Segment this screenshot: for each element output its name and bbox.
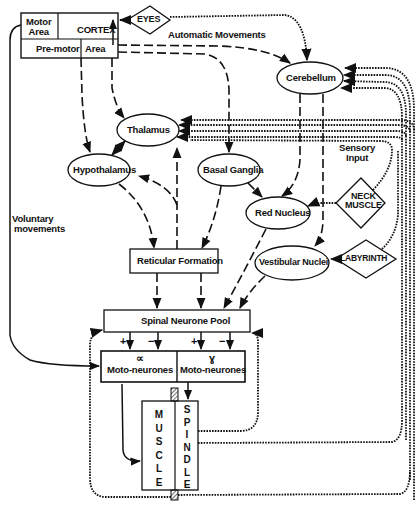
spinal-neurone-pool-label: Spinal Neurone Pool	[141, 316, 230, 326]
eyes-label: EYES	[137, 15, 160, 24]
muscle-letter: U	[151, 422, 167, 436]
spindle-letter: I	[178, 429, 196, 442]
muscle-label: M U S C L E	[151, 408, 167, 489]
cortex-to-hypothalamus-path	[81, 58, 90, 152]
basal-ganglia-label: Basal Ganglia	[203, 165, 263, 175]
hypothalamus-label: Hypothalamus	[73, 165, 136, 175]
voluntary-movements-path	[10, 25, 99, 366]
cerebellum-to-vestibular-path	[315, 94, 323, 246]
spindle-letter: N	[178, 442, 196, 455]
cerebellum-label: Cerebellum	[286, 73, 336, 83]
sensory-line2: Input	[339, 153, 375, 163]
neck-line2: MUSCLE	[345, 201, 382, 210]
premotor-area-label: Area	[85, 44, 105, 54]
automatic-movements-label: Automatic Movements	[168, 30, 266, 40]
gamma-motoneurones-label: ɣ Moto-neurones	[180, 353, 244, 375]
gamma-symbol: ɣ	[180, 353, 244, 365]
muscle-letter: C	[151, 449, 167, 463]
cortex-to-thalamus-path	[112, 58, 124, 118]
gamma-plus-sign: +	[191, 336, 197, 348]
alpha-symbol: ∝	[107, 353, 173, 365]
sensory-input-label: Sensory Input	[339, 143, 375, 163]
tendon-feedback-path	[178, 470, 410, 495]
labyrinth-sensory-path	[382, 150, 398, 249]
spindle-letter: D	[178, 454, 196, 467]
motor-area-line2: Area	[26, 27, 51, 37]
alpha-to-muscle-path	[122, 384, 140, 461]
gamma-text: Moto-neurones	[180, 365, 244, 375]
spindle-letter: L	[178, 467, 196, 480]
spindle-letter: E	[178, 479, 196, 492]
alpha-minus-sign: −	[148, 336, 154, 348]
hypothalamus-to-reticular-path	[119, 184, 154, 248]
alpha-motoneurones-label: ∝ Moto-neurones	[107, 353, 173, 375]
reticular-to-hypothalamus-path	[139, 176, 177, 205]
spindle-letter: S	[178, 404, 196, 417]
vestibular-to-spinal-path	[240, 276, 265, 308]
muscle-letter: S	[151, 435, 167, 449]
spindle-label: S P I N D L E	[178, 404, 196, 492]
voluntary-movements-label: Voluntary movements	[12, 214, 65, 234]
tendon-bottom	[171, 490, 178, 500]
neck-muscle-to-red-nucleus-path	[308, 203, 336, 206]
reticular-formation-label: Reticular Formation	[137, 256, 223, 266]
basal-ganglia-to-reticular-path	[202, 186, 221, 248]
spindle-letter: P	[178, 417, 196, 430]
muscle-letter: M	[151, 408, 167, 422]
neck-muscle-label: NECK MUSCLE	[345, 192, 382, 211]
sensory-to-cerebellum-2	[344, 75, 410, 480]
alpha-text: Moto-neurones	[107, 365, 173, 375]
sensory-to-thalamus-3	[179, 131, 406, 136]
gamma-minus-sign: −	[219, 336, 225, 348]
muscle-letter: L	[151, 462, 167, 476]
motor-area-label: Motor Area	[26, 17, 51, 37]
basal-ganglia-to-red-nucleus-path	[248, 183, 262, 197]
thalamus-label: Thalamus	[127, 125, 170, 135]
tendon-top	[171, 388, 178, 401]
red-nucleus-label: Red Nucleus	[255, 208, 310, 218]
premotor-label: Pre-motor	[36, 44, 80, 54]
thalamus-hypothalamus-path	[112, 141, 125, 155]
vestibular-nuclei-label: Vestibular Nuclei	[259, 258, 328, 267]
sensory-to-thalamus-4	[177, 137, 402, 140]
labyrinth-label: LABYRINTH	[340, 254, 387, 263]
alpha-plus-sign: +	[120, 336, 126, 348]
voluntary-line2: movements	[12, 224, 65, 234]
muscle-letter: E	[151, 476, 167, 490]
cerebellum-to-red-nucleus-path	[282, 94, 300, 196]
cortex-label: CORTEX	[77, 25, 115, 35]
